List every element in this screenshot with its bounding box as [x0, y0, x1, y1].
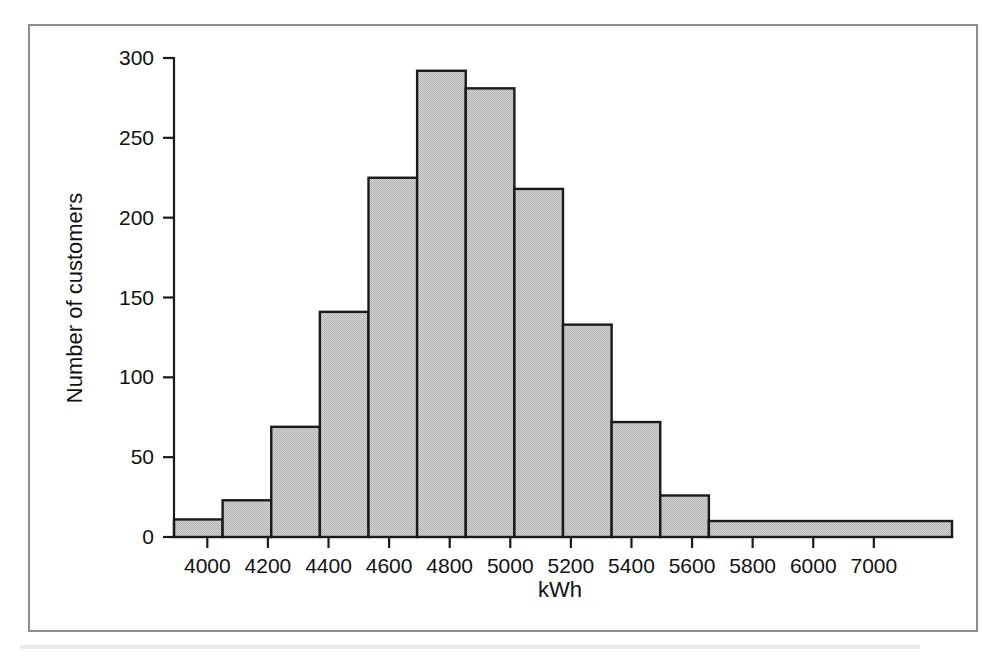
histogram-bar: [174, 519, 223, 537]
histogram-bar: [514, 189, 563, 537]
x-tick-label: 4200: [245, 554, 292, 577]
y-axis-title: Number of customers: [62, 193, 87, 403]
x-tick-label: 4800: [426, 554, 473, 577]
y-tick-label: 50: [131, 445, 154, 468]
histogram-bar: [709, 521, 952, 537]
histogram-bar: [369, 178, 418, 537]
y-tick-label: 150: [119, 286, 154, 309]
y-tick-label: 300: [119, 46, 154, 69]
x-tick-label: 4000: [184, 554, 231, 577]
x-tick-label: 5600: [669, 554, 716, 577]
histogram-bar: [417, 71, 466, 537]
scan-artifact-bar: [20, 645, 920, 649]
histogram-bar: [223, 500, 272, 537]
y-axis-ticks: 050100150200250300: [119, 46, 174, 548]
x-tick-label: 7000: [850, 554, 897, 577]
x-tick-label: 5800: [729, 554, 776, 577]
x-tick-label: 4600: [366, 554, 413, 577]
histogram-bar: [271, 427, 320, 537]
y-tick-label: 200: [119, 206, 154, 229]
histogram-bar: [612, 422, 661, 537]
y-tick-label: 100: [119, 365, 154, 388]
bars-group: [174, 71, 952, 537]
histogram-bar: [320, 312, 369, 537]
x-tick-label: 5400: [608, 554, 655, 577]
histogram-bar: [660, 495, 709, 537]
x-tick-label: 4400: [305, 554, 352, 577]
histogram-bar: [563, 325, 612, 537]
y-tick-label: 250: [119, 126, 154, 149]
x-tick-label: 5000: [487, 554, 534, 577]
histogram-bar: [466, 88, 515, 537]
y-tick-label: 0: [142, 525, 154, 548]
x-tick-label: 6000: [790, 554, 837, 577]
histogram-chart: 050100150200250300 400042004400460048005…: [0, 0, 1001, 657]
x-tick-label: 5200: [548, 554, 595, 577]
x-axis-title: kWh: [538, 577, 582, 602]
x-axis-ticks: 4000420044004600480050005200540056005800…: [184, 537, 897, 577]
